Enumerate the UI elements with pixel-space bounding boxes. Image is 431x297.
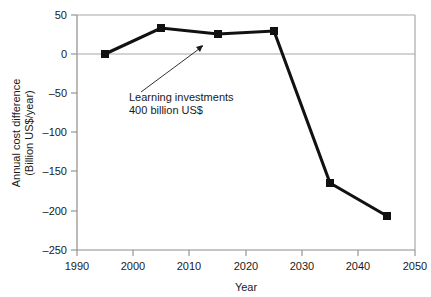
annotation-text-line2: 400 billion US$ — [129, 104, 203, 116]
annotation-label: Learning investments 400 billion US$ — [129, 91, 234, 116]
y-axis-title-line1: Annual cost difference — [10, 79, 22, 188]
line-chart: 50 0 –50 –100 –150 –200 –250 1990 2000 2… — [0, 0, 431, 297]
chart-figure: 50 0 –50 –100 –150 –200 –250 1990 2000 2… — [0, 0, 431, 297]
x-tick-label: 2010 — [177, 260, 201, 272]
annotation-text-line1: Learning investments — [129, 91, 234, 103]
x-axis-title: Year — [235, 281, 258, 293]
data-point-marker — [270, 27, 278, 35]
data-point-marker — [214, 30, 222, 38]
y-tick-label: –100 — [43, 126, 67, 138]
data-point-marker — [383, 212, 391, 220]
data-point-marker — [101, 50, 109, 58]
annotation-arrow-icon — [141, 45, 203, 92]
data-line-series — [105, 28, 387, 216]
x-tick-label: 2020 — [234, 260, 258, 272]
y-tick-label: 50 — [55, 9, 67, 21]
x-tick-label: 2000 — [121, 260, 145, 272]
x-tick-label: 1990 — [65, 260, 89, 272]
x-tick-label: 2040 — [346, 260, 370, 272]
y-tick-label: –150 — [43, 165, 67, 177]
y-tick-label: –200 — [43, 205, 67, 217]
y-axis-title: Annual cost difference (Billion US$/year… — [10, 79, 35, 188]
data-point-marker — [326, 179, 334, 187]
y-tick-label: –50 — [49, 87, 67, 99]
x-tick-label: 2030 — [290, 260, 314, 272]
y-axis-tick-labels: 50 0 –50 –100 –150 –200 –250 — [43, 9, 67, 256]
y-axis-title-line2: (Billion US$/year) — [23, 90, 35, 176]
data-point-marker — [157, 24, 165, 32]
plot-frame — [77, 15, 415, 250]
y-axis-ticks — [71, 15, 77, 250]
x-axis-tick-labels: 1990 2000 2010 2020 2030 2040 2050 — [65, 260, 427, 272]
y-tick-label: 0 — [61, 48, 67, 60]
y-tick-label: –250 — [43, 244, 67, 256]
x-axis-ticks — [77, 250, 415, 256]
x-tick-label: 2050 — [403, 260, 427, 272]
